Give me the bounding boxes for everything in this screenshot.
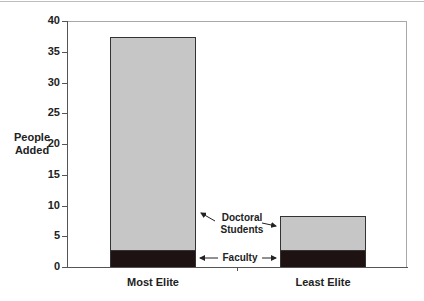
x-category-most-elite: Most Elite: [93, 276, 213, 288]
arrow-to-most-elite-students: [201, 213, 215, 221]
x-category-least-elite: Least Elite: [263, 276, 383, 288]
annotation-arrows: [0, 0, 424, 301]
arrow-to-least-elite-students: [262, 223, 276, 226]
